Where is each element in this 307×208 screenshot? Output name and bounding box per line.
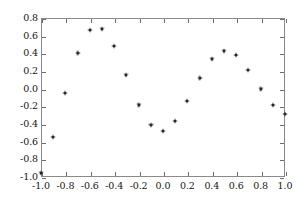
plot-area <box>41 18 285 177</box>
y-axis-tick-right <box>280 37 284 38</box>
x-axis-tick <box>286 172 287 176</box>
data-point-marker <box>259 87 262 90</box>
x-axis-tick-top <box>188 19 189 23</box>
y-axis-tick <box>42 54 46 55</box>
x-axis-tick <box>164 172 165 176</box>
y-axis-tick-right <box>280 72 284 73</box>
y-axis-tick-right <box>280 19 284 20</box>
x-axis-tick-top <box>91 19 92 23</box>
y-axis-tick <box>42 90 46 91</box>
y-axis-tick-right <box>280 143 284 144</box>
x-axis-tick-top <box>213 19 214 23</box>
y-axis-tick-right <box>280 107 284 108</box>
data-point-marker <box>174 120 177 123</box>
y-axis-tick-label: -0.8 <box>20 154 38 164</box>
x-axis-tick-top <box>286 19 287 23</box>
y-axis-tick-right <box>280 160 284 161</box>
x-axis-tick-top <box>42 19 43 23</box>
x-axis-tick <box>213 172 214 176</box>
x-axis-tick <box>237 172 238 176</box>
y-axis-tick-right <box>280 90 284 91</box>
data-point-marker <box>149 123 152 126</box>
x-axis-tick-top <box>140 19 141 23</box>
x-axis-tick-top <box>115 19 116 23</box>
y-axis-tick-label: -0.6 <box>20 137 38 147</box>
x-axis-tick <box>115 172 116 176</box>
scatter-plot-figure: 0.80.60.40.20.0-0.2-0.4-0.6-0.8-1.0-1.0-… <box>0 0 307 208</box>
y-axis-tick <box>42 178 46 179</box>
x-axis-tick-top <box>262 19 263 23</box>
y-axis-tick-label: -0.2 <box>20 101 38 111</box>
data-point-marker <box>223 49 226 52</box>
y-axis-tick-right <box>280 125 284 126</box>
data-point-marker <box>113 45 116 48</box>
x-axis-tick <box>66 172 67 176</box>
y-axis-tick-right <box>280 54 284 55</box>
x-axis-tick <box>140 172 141 176</box>
data-point-marker <box>271 104 274 107</box>
x-axis-tick-top <box>66 19 67 23</box>
y-axis-tick <box>42 37 46 38</box>
x-axis-tick-label: 1.0 <box>270 181 300 191</box>
x-axis-tick <box>91 172 92 176</box>
data-point-marker <box>284 113 287 116</box>
y-axis-tick-label: 0.6 <box>23 31 38 41</box>
y-axis-tick <box>42 72 46 73</box>
y-axis-tick-label: -0.4 <box>20 119 38 129</box>
data-point-marker <box>76 52 79 55</box>
x-axis-tick-top <box>164 19 165 23</box>
y-axis-tick-label: 0.2 <box>23 66 38 76</box>
data-point-marker <box>64 92 67 95</box>
data-point-marker <box>210 57 213 60</box>
y-axis-tick <box>42 125 46 126</box>
data-point-marker <box>40 171 43 174</box>
y-axis-tick-label: 0.4 <box>23 48 38 58</box>
data-point-marker <box>247 69 250 72</box>
y-axis-tick <box>42 143 46 144</box>
data-point-marker <box>101 27 104 30</box>
x-axis-tick <box>188 172 189 176</box>
data-point-marker <box>235 54 238 57</box>
data-point-marker <box>88 29 91 32</box>
x-axis-tick <box>262 172 263 176</box>
y-axis-tick <box>42 160 46 161</box>
data-point-marker <box>52 136 55 139</box>
x-axis-tick-top <box>237 19 238 23</box>
data-point-marker <box>198 77 201 80</box>
y-axis-tick-right <box>280 178 284 179</box>
data-point-marker <box>137 103 140 106</box>
y-axis-tick-label: 0.8 <box>23 13 38 23</box>
data-point-marker <box>125 73 128 76</box>
data-point-marker <box>186 100 189 103</box>
y-axis-tick-label: 0.0 <box>23 84 38 94</box>
y-axis-tick <box>42 107 46 108</box>
data-point-marker <box>162 130 165 133</box>
